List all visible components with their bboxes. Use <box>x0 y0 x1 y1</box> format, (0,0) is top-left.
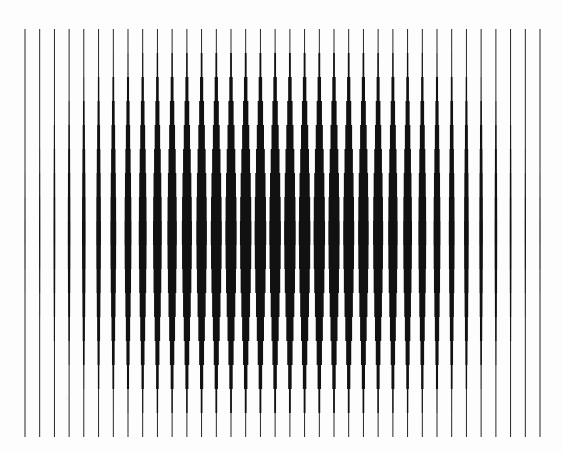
stroke-segment <box>170 341 174 365</box>
stroke-segment <box>156 365 159 389</box>
stroke-segment <box>299 197 310 221</box>
stroke-segment <box>270 173 280 197</box>
stroke-segment <box>185 77 188 101</box>
stroke-segment <box>68 269 70 293</box>
stroke-segment <box>539 197 540 221</box>
stroke-segment <box>289 389 291 413</box>
stroke-segment <box>389 269 397 293</box>
stroke-segment <box>139 221 147 245</box>
stroke-segment <box>451 77 453 101</box>
stroke-segment <box>525 389 526 413</box>
stroke-segment <box>343 221 354 245</box>
stroke-segment <box>407 29 408 53</box>
stroke-segment <box>314 269 324 293</box>
stroke-segment <box>169 125 175 149</box>
stroke-segment <box>167 221 177 245</box>
stroke-segment <box>316 125 323 149</box>
stroke-segment <box>216 413 217 437</box>
stroke-segment <box>39 173 40 197</box>
stroke-segment <box>466 53 467 77</box>
stroke-segment <box>113 29 114 53</box>
stroke-segment <box>25 101 26 125</box>
stroke-segment <box>198 125 205 149</box>
stroke-segment <box>525 269 526 293</box>
stroke-segment <box>200 77 203 101</box>
stroke-segment <box>39 149 40 173</box>
stroke-segment <box>198 293 206 317</box>
stroke-segment <box>406 365 409 389</box>
stroke-segment <box>257 317 264 341</box>
stroke-segment <box>83 317 85 341</box>
stroke-segment <box>111 197 117 221</box>
stroke-segment <box>510 293 511 317</box>
stroke-segment <box>391 101 395 125</box>
stroke-segment <box>404 149 411 173</box>
stroke-segment <box>390 317 396 341</box>
stroke-segment <box>243 341 248 365</box>
stroke-segment <box>215 53 217 77</box>
stroke-segment <box>388 245 397 269</box>
stroke-segment <box>348 53 350 77</box>
stroke-segment <box>244 365 247 389</box>
stroke-segment <box>69 389 70 413</box>
stroke-segment <box>171 389 173 413</box>
stroke-segment <box>481 365 482 389</box>
stroke-segment <box>480 269 483 293</box>
stroke-segment <box>304 389 306 413</box>
stroke-segment <box>25 173 26 197</box>
stroke-segment <box>525 341 526 365</box>
stroke-segment <box>540 125 541 149</box>
stroke-segment <box>285 293 294 317</box>
stroke-segment <box>170 101 174 125</box>
stroke-segment <box>269 221 281 245</box>
stroke-segment <box>464 269 468 293</box>
stroke-segment <box>376 101 381 125</box>
stroke-segment <box>125 197 132 221</box>
stroke-segment <box>25 317 26 341</box>
stroke-segment <box>315 293 324 317</box>
stroke-segment <box>54 245 56 269</box>
stroke-segment <box>392 53 394 77</box>
stroke-segment <box>153 245 161 269</box>
stroke-segment <box>466 77 467 101</box>
stroke-segment <box>289 29 290 53</box>
stroke-segment <box>317 341 322 365</box>
stroke-segment <box>495 149 497 173</box>
stroke-segment <box>334 29 335 53</box>
stroke-segment <box>98 389 99 413</box>
stroke-segment <box>140 149 146 173</box>
stroke-segment <box>54 317 55 341</box>
stroke-segment <box>525 245 526 269</box>
stroke-segment <box>83 125 85 149</box>
stroke-segment <box>495 317 497 341</box>
stroke-segment <box>314 197 325 221</box>
stroke-segment <box>525 173 526 197</box>
stroke-segment <box>259 53 261 77</box>
stroke-segment <box>54 269 56 293</box>
stroke-segment <box>481 413 482 437</box>
stroke-segment <box>347 365 350 389</box>
stroke-segment <box>344 173 354 197</box>
stroke-segment <box>362 365 365 389</box>
artwork-canvas <box>0 0 563 453</box>
stroke-segment <box>451 365 453 389</box>
stroke-segment <box>197 197 207 221</box>
stroke-segment <box>242 125 249 149</box>
stroke-segment <box>437 413 438 437</box>
stroke-segment <box>525 413 526 437</box>
stroke-segment <box>405 125 410 149</box>
stroke-segment <box>449 221 455 245</box>
stroke-segment <box>69 101 70 125</box>
stroke-segment <box>464 173 468 197</box>
stroke-segment <box>216 29 217 53</box>
stroke-segment <box>197 269 206 293</box>
stroke-segment <box>540 341 541 365</box>
stroke-segment <box>211 221 222 245</box>
stroke-segment <box>196 221 207 245</box>
stroke-segment <box>228 125 235 149</box>
stroke-segment <box>540 53 541 77</box>
stroke-segment <box>213 317 220 341</box>
stroke-segment <box>54 101 55 125</box>
stroke-segment <box>450 101 453 125</box>
stroke-segment <box>127 53 128 77</box>
